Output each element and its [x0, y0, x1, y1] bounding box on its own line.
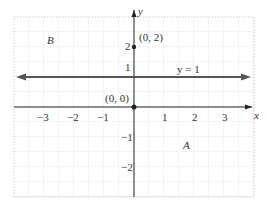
x-tick-m2: −2: [67, 112, 79, 123]
x-tick-m3: −3: [37, 112, 49, 123]
y-axis-arrow-icon: [132, 10, 137, 17]
point-0-2: [132, 45, 136, 49]
x-tick-m1: −1: [97, 112, 109, 123]
y-tick-2: 2: [125, 41, 131, 52]
y-tick-m2: −2: [121, 162, 133, 173]
point-label-0-0: (0, 0): [105, 93, 129, 104]
x-tick-1: 1: [162, 112, 168, 123]
x-axis-label: x: [254, 110, 259, 121]
x-tick-2: 2: [192, 112, 198, 123]
line-label: y = 1: [177, 64, 200, 75]
y-axis-label: y: [138, 6, 143, 17]
y-tick-m1: −1: [121, 132, 133, 143]
coordinate-plane: [0, 0, 268, 209]
region-b-label: B: [47, 35, 54, 46]
x-tick-3: 3: [222, 112, 228, 123]
point-label-0-2: (0, 2): [139, 32, 163, 43]
point-0-0: [132, 105, 137, 110]
region-a-label: A: [183, 140, 190, 151]
y-tick-1: 1: [125, 62, 131, 73]
